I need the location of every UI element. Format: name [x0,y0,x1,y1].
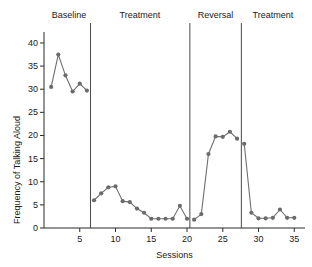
data-point [142,211,146,215]
series-line-segment-3 [194,132,237,220]
data-point [56,52,60,56]
chart-plot [0,0,312,267]
x-tick-label-5: 5 [77,234,82,244]
data-point [71,89,75,93]
data-point [199,212,203,216]
data-point [264,216,268,220]
x-tick-label-15: 15 [146,234,156,244]
data-point [128,200,132,204]
data-point [121,199,125,203]
x-tick-label-30: 30 [254,234,264,244]
data-point [178,204,182,208]
data-point [249,211,253,215]
x-tick-label-35: 35 [289,234,299,244]
data-point [278,207,282,211]
data-point [235,137,239,141]
data-point [214,134,218,138]
y-tick-label-15: 15 [28,154,38,164]
data-point [106,185,110,189]
data-point [185,217,189,221]
data-point [135,206,139,210]
data-point [49,85,53,89]
y-tick-label-0: 0 [33,223,38,233]
chart-container: Baseline Treatment Reversal Treatment Fr… [0,0,312,267]
y-tick-label-10: 10 [28,177,38,187]
y-tick-label-30: 30 [28,84,38,94]
y-tick-label-40: 40 [28,38,38,48]
series-line-segment-2 [94,186,187,218]
y-tick-label-20: 20 [28,130,38,140]
data-point [221,135,225,139]
data-point [156,217,160,221]
data-point [242,142,246,146]
data-point [285,216,289,220]
series-line-segment-1 [51,55,87,92]
y-tick-label-25: 25 [28,107,38,117]
data-point [99,191,103,195]
x-tick-label-20: 20 [182,234,192,244]
data-point [113,184,117,188]
data-point [171,217,175,221]
data-point [149,217,153,221]
y-tick-label-35: 35 [28,61,38,71]
data-point [228,130,232,134]
data-point [85,88,89,92]
data-point [163,217,167,221]
data-point [292,216,296,220]
x-tick-label-10: 10 [110,234,120,244]
series-line-segment-4 [244,144,294,218]
data-point [256,216,260,220]
y-tick-label-5: 5 [33,200,38,210]
data-point [271,216,275,220]
data-point [63,73,67,77]
x-tick-label-25: 25 [218,234,228,244]
data-point [78,82,82,86]
data-point [192,218,196,222]
data-point [206,152,210,156]
data-point [92,198,96,202]
